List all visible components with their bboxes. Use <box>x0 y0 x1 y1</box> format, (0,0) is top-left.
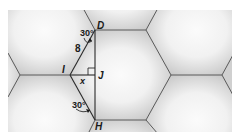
honeycomb-background <box>0 0 238 137</box>
point-label-I: I <box>62 64 65 75</box>
angle-label-top: 30° <box>80 28 94 38</box>
point-label-D: D <box>97 20 104 31</box>
point-label-J: J <box>98 70 104 81</box>
hexagon-tiling-diagram: D I J H 30° 8 x 30° <box>0 0 238 137</box>
unknown-x-label: x <box>79 76 86 86</box>
angle-label-bottom: 30° <box>72 100 86 110</box>
side-length-label: 8 <box>75 43 81 54</box>
point-label-H: H <box>95 121 103 132</box>
